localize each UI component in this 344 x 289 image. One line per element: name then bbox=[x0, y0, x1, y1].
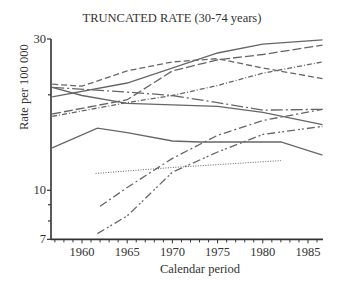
line-chart: 30107196019651970197519801985 bbox=[0, 0, 344, 289]
series-line-series-10 bbox=[96, 161, 281, 174]
y-tick-label: 7 bbox=[40, 232, 46, 246]
x-tick-label: 1975 bbox=[205, 245, 230, 259]
series-line-series-1 bbox=[52, 40, 322, 97]
y-tick-label: 30 bbox=[34, 32, 47, 46]
x-tick-label: 1965 bbox=[115, 245, 140, 259]
x-tick-label: 1980 bbox=[250, 245, 275, 259]
x-tick-label: 1985 bbox=[296, 245, 321, 259]
plot-area bbox=[52, 40, 322, 234]
x-tick-label: 1960 bbox=[70, 245, 95, 259]
x-tick-label: 1970 bbox=[160, 245, 185, 259]
y-tick-label: 10 bbox=[34, 183, 47, 197]
series-line-series-3 bbox=[52, 45, 322, 114]
series-line-series-8 bbox=[100, 109, 322, 206]
